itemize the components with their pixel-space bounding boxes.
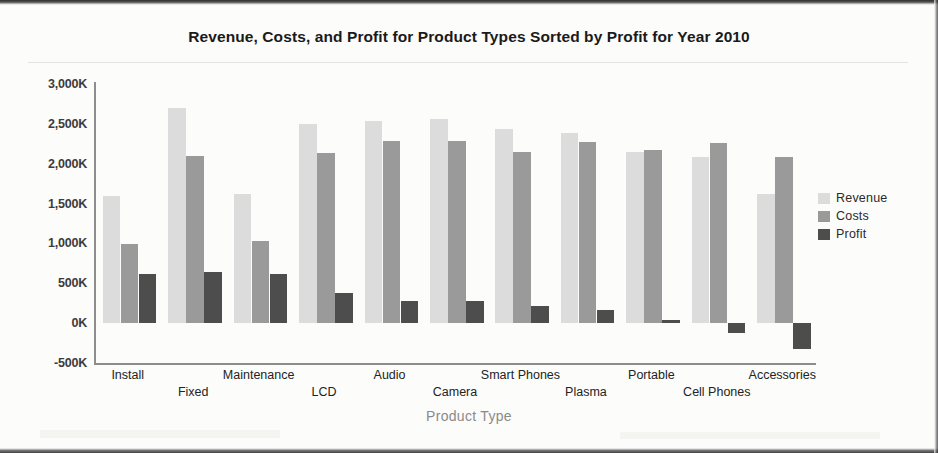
bar-revenue[interactable] <box>495 129 513 324</box>
bar-group <box>430 84 484 363</box>
legend-swatch-icon <box>818 193 830 204</box>
x-axis-category-label: Accessories <box>749 368 816 382</box>
bar-revenue[interactable] <box>692 157 710 324</box>
bar-profit[interactable] <box>466 301 484 323</box>
bar-revenue[interactable] <box>234 194 252 323</box>
x-axis-category-label: LCD <box>312 385 337 399</box>
bar-group <box>168 84 222 363</box>
bar-profit[interactable] <box>139 274 157 323</box>
bar-profit[interactable] <box>335 293 353 323</box>
bar-costs[interactable] <box>186 156 204 323</box>
x-axis-category-label: Cell Phones <box>683 385 750 399</box>
bar-group <box>626 84 680 363</box>
y-axis-tick-label: -500K <box>54 356 87 370</box>
bar-profit[interactable] <box>204 272 222 323</box>
y-axis-tick-label: 2,500K <box>48 117 87 131</box>
y-axis-tick-label: 0K <box>71 316 87 330</box>
bar-group <box>757 84 811 363</box>
bar-group <box>365 84 419 363</box>
bar-group <box>495 84 549 363</box>
bar-revenue[interactable] <box>561 133 579 323</box>
bar-costs[interactable] <box>252 241 270 323</box>
bar-revenue[interactable] <box>626 152 644 323</box>
y-axis-tick-label: 2,000K <box>48 157 87 171</box>
bar-revenue[interactable] <box>103 196 121 324</box>
y-axis-tick-label: 1,500K <box>48 197 87 211</box>
bar-profit[interactable] <box>401 301 419 323</box>
bar-costs[interactable] <box>710 143 728 323</box>
legend-label: Profit <box>836 227 866 241</box>
bar-revenue[interactable] <box>430 119 448 323</box>
legend-item[interactable]: Revenue <box>818 190 887 206</box>
legend-label: Costs <box>836 209 869 223</box>
bar-group <box>103 84 157 363</box>
bar-costs[interactable] <box>579 142 597 323</box>
legend-label: Revenue <box>836 191 887 205</box>
x-axis-line <box>94 363 816 365</box>
bar-profit[interactable] <box>270 274 288 323</box>
bar-revenue[interactable] <box>299 124 317 323</box>
bar-costs[interactable] <box>121 244 139 323</box>
bar-group <box>692 84 746 363</box>
x-axis-category-label: Audio <box>374 368 406 382</box>
bar-costs[interactable] <box>448 141 466 324</box>
plot-area: 3,000K2,500K2,000K1,500K1,000K500K0K-500… <box>95 84 815 363</box>
bar-revenue[interactable] <box>757 194 775 323</box>
bar-costs[interactable] <box>513 152 531 323</box>
bar-profit[interactable] <box>728 323 746 333</box>
y-axis-tick-label: 1,000K <box>48 236 87 250</box>
bar-profit[interactable] <box>793 323 811 349</box>
bar-costs[interactable] <box>317 153 335 324</box>
legend-item[interactable]: Costs <box>818 208 887 224</box>
x-axis-category-label: Plasma <box>565 385 607 399</box>
x-axis-category-label: Camera <box>433 385 477 399</box>
bar-group <box>234 84 288 363</box>
y-axis-tick-label: 3,000K <box>48 77 87 91</box>
legend-swatch-icon <box>818 229 830 240</box>
x-axis-category-label: Install <box>111 368 144 382</box>
bar-profit[interactable] <box>662 320 680 323</box>
x-axis-title: Product Type <box>0 408 938 424</box>
bar-costs[interactable] <box>383 141 401 323</box>
bar-group <box>561 84 615 363</box>
x-axis-category-label: Portable <box>628 368 675 382</box>
bar-profit[interactable] <box>597 310 615 323</box>
legend-swatch-icon <box>818 211 830 222</box>
y-axis-tick-label: 500K <box>58 276 87 290</box>
x-axis-category-label: Smart Phones <box>481 368 560 382</box>
x-axis-category-label: Maintenance <box>223 368 295 382</box>
legend-item[interactable]: Profit <box>818 226 887 242</box>
chart-legend: RevenueCostsProfit <box>818 190 887 244</box>
bar-profit[interactable] <box>531 306 549 323</box>
bar-group <box>299 84 353 363</box>
bar-costs[interactable] <box>775 157 793 324</box>
bar-revenue[interactable] <box>168 108 186 323</box>
bar-costs[interactable] <box>644 150 662 323</box>
bar-revenue[interactable] <box>365 121 383 323</box>
x-axis-category-label: Fixed <box>178 385 209 399</box>
chart-page: Revenue, Costs, and Profit for Product T… <box>0 0 938 453</box>
